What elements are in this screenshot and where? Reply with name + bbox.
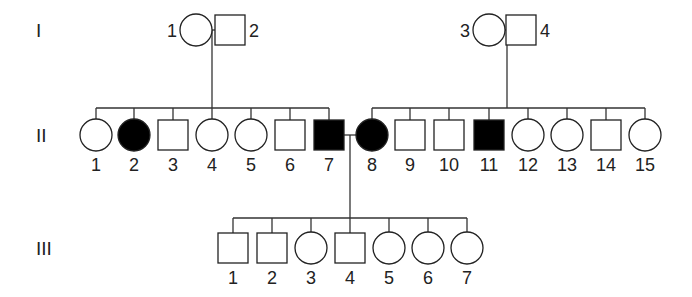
individual-III-5-circle-icon	[373, 232, 405, 264]
individual-III-4-square-icon	[335, 233, 365, 263]
individual-III-6-circle-icon	[412, 232, 444, 264]
individual-II-11-square-icon	[474, 120, 504, 150]
individual-II-3-square-icon	[158, 120, 188, 150]
individual-label-III-2: 2	[267, 268, 277, 288]
individual-II-14-square-icon	[591, 120, 621, 150]
individual-II-15-circle-icon	[629, 119, 661, 151]
individual-label-II-12: 12	[518, 155, 538, 175]
individual-label-II-10: 10	[439, 155, 459, 175]
individual-II-10-square-icon	[434, 120, 464, 150]
individual-I-1-circle-icon	[180, 14, 212, 46]
individual-label-III-3: 3	[306, 268, 316, 288]
individual-label-II-6: 6	[285, 155, 295, 175]
individual-label-III-6: 6	[423, 268, 433, 288]
individual-label-II-1: 1	[91, 155, 101, 175]
pedigree-chart: IIIIII12341234567891011121314151234567	[0, 0, 692, 297]
individual-label-III-1: 1	[228, 268, 238, 288]
individual-label-II-9: 9	[405, 155, 415, 175]
individual-label-II-5: 5	[246, 155, 256, 175]
individual-label-II-3: 3	[168, 155, 178, 175]
individual-label-II-7: 7	[324, 155, 334, 175]
individual-II-4-circle-icon	[196, 119, 228, 151]
individual-label-II-4: 4	[207, 155, 217, 175]
individual-II-8-circle-icon	[356, 119, 388, 151]
individual-label-III-7: 7	[462, 268, 472, 288]
individual-label-I-4: 4	[540, 21, 550, 41]
individual-label-II-8: 8	[367, 155, 377, 175]
individual-II-1-circle-icon	[80, 119, 112, 151]
individual-label-I-1: 1	[167, 21, 177, 41]
individual-label-I-2: 2	[249, 21, 259, 41]
individual-I-3-circle-icon	[473, 14, 505, 46]
individual-label-I-3: 3	[460, 21, 470, 41]
individual-III-7-circle-icon	[451, 232, 483, 264]
individual-label-II-11: 11	[480, 155, 499, 175]
individual-II-6-square-icon	[275, 120, 305, 150]
individual-II-13-circle-icon	[551, 119, 583, 151]
individual-label-II-15: 15	[635, 155, 655, 175]
individual-I-4-square-icon	[506, 15, 536, 45]
individual-II-2-circle-icon	[118, 119, 150, 151]
individual-label-II-14: 14	[596, 155, 616, 175]
individual-label-II-2: 2	[129, 155, 139, 175]
individual-III-1-square-icon	[218, 233, 248, 263]
individual-I-2-square-icon	[215, 15, 245, 45]
individual-III-3-circle-icon	[295, 232, 327, 264]
generation-label-III: III	[36, 238, 52, 259]
individual-III-2-square-icon	[257, 233, 287, 263]
individual-label-III-5: 5	[384, 268, 394, 288]
individual-II-9-square-icon	[395, 120, 425, 150]
generation-label-I: I	[36, 20, 41, 41]
individual-II-7-square-icon	[314, 120, 344, 150]
individual-label-III-4: 4	[345, 268, 355, 288]
individual-label-II-13: 13	[557, 155, 577, 175]
generation-label-II: II	[36, 125, 47, 146]
individual-II-12-circle-icon	[512, 119, 544, 151]
individual-II-5-circle-icon	[235, 119, 267, 151]
